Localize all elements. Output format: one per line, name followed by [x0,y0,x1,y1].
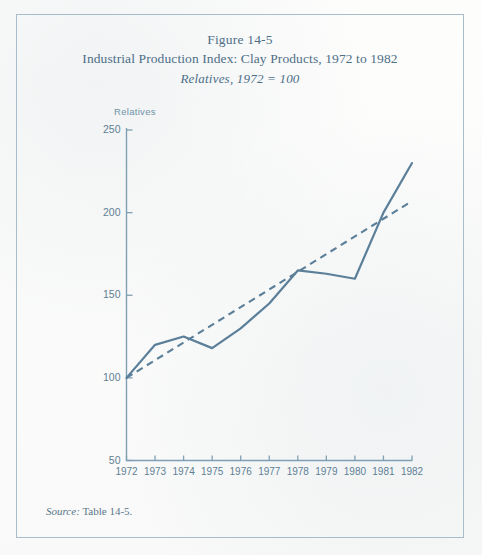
chart-series-group [127,163,413,378]
y-tick-label: 150 [91,288,121,300]
series-line-trend [127,201,413,378]
chart-axes [126,128,412,461]
source-reference: Table 14-5. [82,505,132,517]
y-tick-label: 200 [91,206,121,218]
y-tick-label: 100 [91,371,121,383]
series-line-index [127,163,413,378]
x-tick-label: 1982 [395,466,429,477]
source-label: Source: [46,505,80,517]
y-tick-label: 50 [91,454,121,466]
figure-page: Figure 14-5 Industrial Production Index:… [0,0,482,555]
source-note: Source: Table 14-5. [46,505,132,517]
y-tick-label: 250 [91,123,121,135]
